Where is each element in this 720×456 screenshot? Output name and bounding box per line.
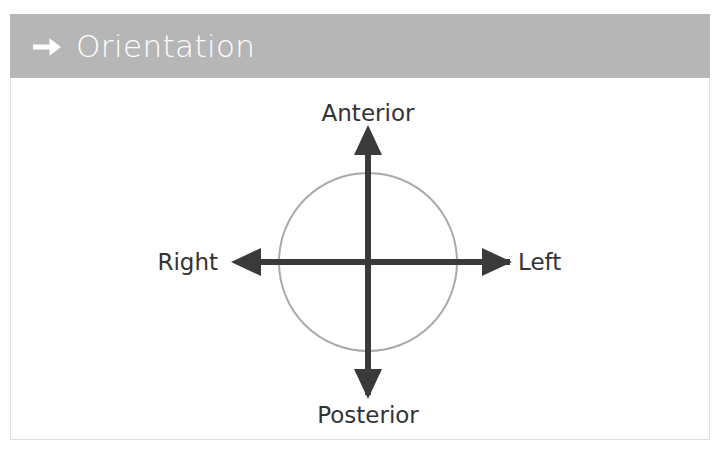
page-title: Orientation	[76, 31, 255, 62]
slide: Orientation Anterior Posterior Right	[0, 0, 720, 456]
slide-header-bar: Orientation	[10, 14, 710, 78]
arrow-right-icon	[32, 34, 62, 60]
label-right: Right	[157, 249, 218, 275]
label-left: Left	[518, 249, 561, 275]
horizontal-axis-arrows	[231, 248, 512, 276]
label-posterior: Posterior	[317, 402, 419, 428]
label-anterior: Anterior	[322, 100, 415, 126]
orientation-svg: Anterior Posterior Right Left	[10, 79, 710, 440]
orientation-diagram: Anterior Posterior Right Left	[10, 79, 710, 440]
